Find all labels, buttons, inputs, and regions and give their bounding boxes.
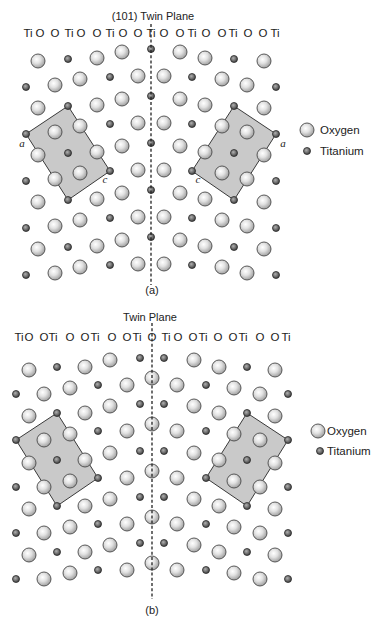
oxygen-atom-icon xyxy=(170,517,184,531)
oxygen-atom-icon xyxy=(103,538,117,552)
column-label-o: O xyxy=(256,331,265,343)
column-label-ti: Ti xyxy=(281,331,290,343)
oxygen-atom-icon xyxy=(212,499,226,513)
oxygen-atom-icon xyxy=(240,219,254,233)
oxygen-atom-icon xyxy=(212,545,226,559)
oxygen-atom-icon xyxy=(212,453,226,467)
titanium-atom-icon xyxy=(203,521,210,528)
column-label-ti: Ti xyxy=(23,27,32,39)
column-label-ti: Ti xyxy=(48,331,57,343)
oxygen-atom-icon xyxy=(215,213,229,227)
oxygen-atom-icon xyxy=(173,233,187,247)
oxygen-atom-icon xyxy=(22,363,36,377)
titanium-atom-icon xyxy=(317,448,324,455)
titanium-atom-icon xyxy=(54,503,61,510)
titanium-atom-icon xyxy=(13,576,20,583)
oxygen-atom-icon xyxy=(120,378,134,392)
titanium-atom-icon xyxy=(107,215,114,222)
titanium-atom-icon xyxy=(244,457,251,464)
lattice-axis-label-c: c xyxy=(103,173,108,185)
column-label-ti: Ti xyxy=(228,27,237,39)
titanium-atom-icon xyxy=(273,178,280,185)
oxygen-atom-icon xyxy=(120,517,134,531)
column-label-o: O xyxy=(214,331,223,343)
titanium-atom-icon xyxy=(231,150,238,157)
titanium-atom-icon xyxy=(203,428,210,435)
oxygen-atom-icon xyxy=(31,242,45,256)
oxygen-atom-icon xyxy=(157,210,171,224)
oxygen-atom-icon xyxy=(103,446,117,460)
column-label-o: O xyxy=(25,331,34,343)
panel-b: Twin Plane TiOOTiOOTiOOTiOTiOOTiOOTiOOTi… xyxy=(13,311,371,616)
titanium-atom-icon xyxy=(273,225,280,232)
titanium-atom-icon xyxy=(161,355,168,362)
oxygen-atom-icon xyxy=(268,548,282,562)
titanium-atom-icon xyxy=(161,540,168,547)
panel-b-title: Twin Plane xyxy=(123,311,177,323)
oxygen-atom-icon xyxy=(48,78,62,92)
column-label-ti: Ti xyxy=(90,331,99,343)
titanium-atom-icon xyxy=(244,364,251,371)
oxygen-atom-icon xyxy=(227,520,241,534)
column-label-o: O xyxy=(160,27,169,39)
titanium-atom-icon xyxy=(244,503,251,510)
oxygen-atom-icon xyxy=(78,360,92,374)
titanium-atom-icon xyxy=(189,262,196,269)
legend-label-titanium: Titanium xyxy=(327,445,371,457)
oxygen-atom-icon xyxy=(187,399,201,413)
oxygen-atom-icon xyxy=(63,520,77,534)
lattice-axis-label-a: a xyxy=(19,137,25,149)
oxygen-atom-icon xyxy=(173,139,187,153)
titanium-atom-icon xyxy=(137,401,144,408)
oxygen-atom-icon xyxy=(212,406,226,420)
titanium-atom-icon xyxy=(95,521,102,528)
column-label-o: O xyxy=(123,331,132,343)
oxygen-atom-icon xyxy=(212,360,226,374)
oxygen-atom-icon xyxy=(170,424,184,438)
oxygen-atom-icon xyxy=(90,51,104,65)
rutile-twin-diagram: (101) Twin Plane TiOOTiOOTiOOTiOOTiOOTiO… xyxy=(0,0,379,625)
oxygen-atom-icon xyxy=(37,572,51,586)
titanium-atom-icon xyxy=(231,56,238,63)
oxygen-atom-icon xyxy=(157,163,171,177)
lattice-axis-label-a: a xyxy=(280,137,286,149)
titanium-atom-icon xyxy=(107,168,114,175)
titanium-atom-icon xyxy=(13,437,20,444)
column-label-ti: Ti xyxy=(187,27,196,39)
column-label-o: O xyxy=(36,27,45,39)
oxygen-atom-icon xyxy=(198,145,212,159)
column-label-o: O xyxy=(93,27,102,39)
oxygen-atom-icon xyxy=(78,406,92,420)
oxygen-atom-icon xyxy=(90,239,104,253)
titanium-atom-icon xyxy=(189,215,196,222)
oxygen-atom-icon xyxy=(215,166,229,180)
titanium-atom-icon xyxy=(273,131,280,138)
column-label-o: O xyxy=(108,331,117,343)
titanium-atom-icon xyxy=(23,131,30,138)
oxygen-atom-icon xyxy=(157,257,171,271)
titanium-atom-icon xyxy=(189,168,196,175)
titanium-atom-icon xyxy=(285,391,292,398)
column-label-ti: Ti xyxy=(238,331,247,343)
oxygen-atom-icon xyxy=(131,163,145,177)
titanium-atom-icon xyxy=(65,56,72,63)
column-label-ti: Ti xyxy=(198,331,207,343)
oxygen-atom-icon xyxy=(187,446,201,460)
titanium-atom-icon xyxy=(161,448,168,455)
oxygen-atom-icon xyxy=(31,148,45,162)
legend-label-titanium: Titanium xyxy=(320,145,364,157)
oxygen-atom-icon xyxy=(131,116,145,130)
oxygen-atom-icon xyxy=(103,492,117,506)
oxygen-atom-icon xyxy=(268,502,282,516)
oxygen-atom-icon xyxy=(22,548,36,562)
legend: OxygenTitanium xyxy=(300,123,364,157)
panel-b-caption: (b) xyxy=(145,604,158,616)
oxygen-atom-icon xyxy=(37,387,51,401)
titanium-atom-icon xyxy=(13,484,20,491)
oxygen-atom-icon xyxy=(240,172,254,186)
titanium-atom-icon xyxy=(23,178,30,185)
column-label-o: O xyxy=(259,27,268,39)
oxygen-atom-icon xyxy=(63,381,77,395)
panel-a: (101) Twin Plane TiOOTiOOTiOOTiOOTiOOTiO… xyxy=(19,10,363,296)
column-label-o: O xyxy=(66,331,75,343)
